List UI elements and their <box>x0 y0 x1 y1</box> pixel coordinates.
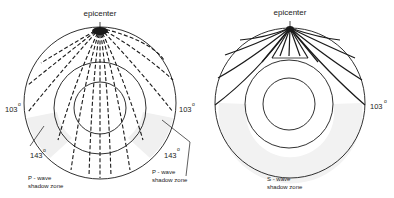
p-angle-left-143: 143 <box>30 151 43 160</box>
p-degree-right-103: o <box>192 101 195 107</box>
p-inner-core <box>74 82 126 134</box>
p-shadow-right-label-1: P - wave <box>152 169 176 175</box>
s-inner-core <box>263 78 315 130</box>
s-degree-right-103: o <box>384 98 387 104</box>
p-degree-left-103: o <box>18 101 21 107</box>
p-shadow-left-label-1: P - wave <box>28 175 52 181</box>
p-angle-right-103: 103 <box>179 105 192 114</box>
s-angle-right-103: 103 <box>370 102 383 111</box>
p-angle-left-103: 103 <box>5 105 18 114</box>
p-shadow-left-label-2: shadow zone <box>28 183 64 189</box>
p-epicenter-label: epicenter <box>84 9 117 18</box>
p-angle-right-143: 143 <box>164 151 177 160</box>
s-shadow-label-2: shadow zone <box>267 184 303 190</box>
s-epicenter-label: epicenter <box>274 8 307 17</box>
s-shadow-zone <box>219 103 363 183</box>
s-wave-globe: epicenter 103 o S - wave shadow zone <box>215 8 387 190</box>
seismic-wave-diagram: epicenter 103 o 103 o 143 o 143 o P - wa… <box>0 0 394 198</box>
p-degree-right-143: o <box>177 146 180 152</box>
s-shadow-label-1: S - wave <box>267 176 291 182</box>
p-degree-left-143: o <box>43 147 46 153</box>
p-wave-globe: epicenter 103 o 103 o 143 o 143 o P - wa… <box>5 9 195 189</box>
s-outer-core <box>245 60 333 148</box>
s-wave-rays <box>215 28 365 105</box>
p-epicenter-marker <box>92 27 108 35</box>
p-shadow-right-label-2: shadow zone <box>152 177 188 183</box>
